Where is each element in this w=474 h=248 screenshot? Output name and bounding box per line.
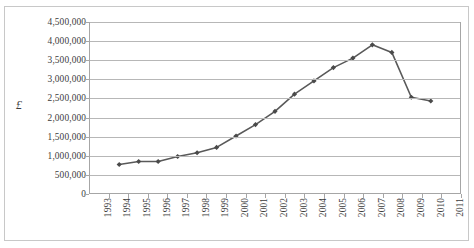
x-axis-tick: [344, 194, 345, 198]
y-axis-tick: [84, 118, 89, 119]
plot-area: [89, 22, 461, 194]
x-axis-tick-label: 1996: [162, 198, 172, 217]
gridline: [90, 60, 460, 61]
y-axis-tick-label: 1,500,000: [24, 132, 86, 142]
x-axis-tick-label: 2001: [259, 198, 269, 217]
y-axis-tick-label: 500,000: [24, 170, 86, 180]
x-axis-tick-label: 2000: [240, 198, 250, 217]
y-axis-tick-label: 4,500,000: [24, 17, 86, 27]
x-axis-tick: [206, 194, 207, 198]
y-axis-tick: [84, 175, 89, 176]
gridline: [90, 137, 460, 138]
y-axis-tick-label: 4,000,000: [24, 36, 86, 46]
data-point-marker: [136, 159, 141, 164]
x-axis-tick-label: 1993: [103, 198, 113, 217]
x-axis-tick: [461, 194, 462, 198]
x-axis-tick-label: 2006: [357, 198, 367, 217]
x-axis-tick-label: 2004: [318, 198, 328, 217]
gridline: [90, 22, 460, 23]
y-axis-tick-label: 3,000,000: [24, 74, 86, 84]
y-axis-tick: [84, 79, 89, 80]
gridline: [90, 156, 460, 157]
y-axis-tick-label: 2,000,000: [24, 113, 86, 123]
x-axis-tick: [128, 194, 129, 198]
x-axis-tick: [304, 194, 305, 198]
x-axis-tick: [402, 194, 403, 198]
y-axis-tick-label: 0: [24, 189, 86, 199]
y-axis-tick: [84, 156, 89, 157]
y-axis-tick: [84, 22, 89, 23]
x-axis-tick-label: 2007: [377, 198, 387, 217]
x-axis-tick-label: 2003: [299, 198, 309, 217]
x-axis-tick: [383, 194, 384, 198]
x-axis-tick: [246, 194, 247, 198]
x-axis-tick: [187, 194, 188, 198]
y-axis-tick: [84, 60, 89, 61]
x-axis-tick-label: 1994: [122, 198, 132, 217]
x-axis-tick: [109, 194, 110, 198]
y-axis-title: £: [16, 98, 22, 113]
x-axis-tick: [422, 194, 423, 198]
x-axis-labels: 1993199419951996199719981999200020012002…: [89, 196, 461, 244]
gridline: [90, 118, 460, 119]
x-axis-tick: [226, 194, 227, 198]
x-axis-tick: [324, 194, 325, 198]
x-axis-tick-label: 2009: [416, 198, 426, 217]
x-axis-tick: [265, 194, 266, 198]
data-point-marker: [195, 150, 200, 155]
x-axis-tick: [441, 194, 442, 198]
line-series: [90, 22, 460, 193]
y-axis-tick: [84, 41, 89, 42]
x-axis-tick: [167, 194, 168, 198]
data-point-marker: [389, 50, 394, 55]
gridline: [90, 98, 460, 99]
data-point-marker: [117, 162, 122, 167]
y-axis-tick-label: 3,500,000: [24, 55, 86, 65]
x-axis-tick: [285, 194, 286, 198]
x-axis-tick-label: 1999: [220, 198, 230, 217]
x-axis-tick-label: 1997: [181, 198, 191, 217]
y-axis-tick: [84, 194, 89, 195]
x-axis-tick-label: 2005: [338, 198, 348, 217]
x-axis-tick: [363, 194, 364, 198]
y-axis-tick-label: 2,500,000: [24, 93, 86, 103]
chart-figure: £ 0500,0001,000,0001,500,0002,000,0002,5…: [0, 0, 474, 248]
x-axis-tick-label: 2010: [436, 198, 446, 217]
gridline: [90, 79, 460, 80]
y-axis-labels: 0500,0001,000,0001,500,0002,000,0002,500…: [24, 0, 86, 248]
y-axis-tick-label: 1,000,000: [24, 151, 86, 161]
y-axis-tick: [84, 137, 89, 138]
series-polyline: [119, 45, 431, 165]
x-axis-tick-label: 2002: [279, 198, 289, 217]
y-axis-tick: [84, 98, 89, 99]
gridline: [90, 175, 460, 176]
x-axis-tick-label: 2011: [455, 198, 465, 217]
x-axis-tick-label: 1995: [142, 198, 152, 217]
x-axis-tick-label: 1998: [201, 198, 211, 217]
gridline: [90, 41, 460, 42]
x-axis-tick-label: 2008: [396, 198, 406, 217]
data-point-marker: [156, 159, 161, 164]
x-axis-tick: [148, 194, 149, 198]
